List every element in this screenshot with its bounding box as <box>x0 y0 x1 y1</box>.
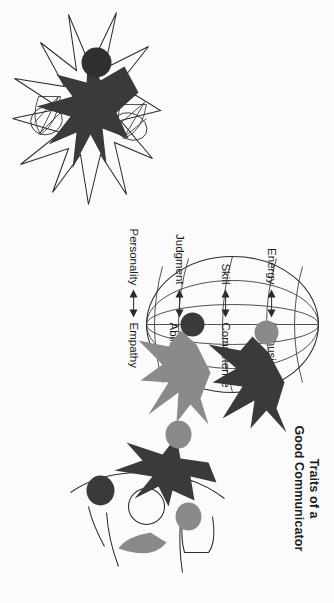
trait-label-manager-side: Personality <box>127 228 139 289</box>
globe-figure-dark <box>208 320 286 432</box>
communicator-figure-dark <box>114 436 216 506</box>
manager-figure-dark <box>36 47 138 168</box>
double-headed-arrow-icon <box>127 289 139 317</box>
communicator-illustration <box>58 420 238 580</box>
diagram-canvas: Traits of a Good Communicator Traits of … <box>0 0 334 603</box>
dark-circle-shape <box>86 475 114 505</box>
globe-illustration <box>138 232 328 442</box>
gray-circle-shape <box>165 420 191 448</box>
gray-circle-shape <box>175 502 201 530</box>
gray-arc-shape <box>118 532 166 553</box>
page-root: Traits of a Good Communicator Traits of … <box>0 0 334 603</box>
trait-label-communicator-side: Empathy <box>127 317 139 380</box>
manager-illustration <box>8 8 164 208</box>
